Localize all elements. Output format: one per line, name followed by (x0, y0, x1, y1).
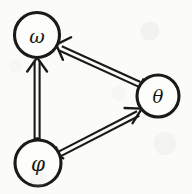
node-theta-label: θ (153, 86, 164, 107)
edge-phi-to-omega (27, 58, 47, 142)
edge-phi-to-theta-rail-upper (59, 111, 137, 151)
edge-theta-to-omega-rail-upper (62, 46, 141, 82)
edge-phi-to-omega-arrowhead-icon (27, 58, 47, 72)
edge-theta-to-omega-rail-lower (60, 51, 139, 87)
edge-phi-to-theta-rail-lower (61, 116, 139, 156)
edge-phi-to-theta (56, 108, 142, 158)
edge-theta-to-omega (56, 37, 144, 91)
node-phi-label: φ (31, 152, 45, 176)
node-theta[interactable]: θ (137, 75, 179, 117)
diagram-canvas: ω θ φ (0, 0, 192, 194)
node-omega-label: ω (29, 25, 45, 47)
graph-diagram: ω θ φ (0, 0, 192, 194)
node-phi[interactable]: φ (15, 140, 61, 186)
node-omega[interactable]: ω (15, 13, 60, 58)
